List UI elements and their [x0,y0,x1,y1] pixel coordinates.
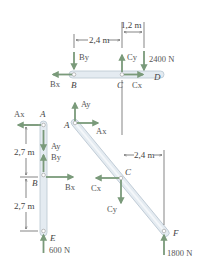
label-cy-top: Cy [127,52,138,62]
label-cx-diag: Cx [91,183,102,193]
label-cx-top: Cx [132,80,143,90]
label-by-top: By [79,52,90,62]
point-e: E [49,233,56,243]
pin-a-diag [73,121,77,125]
label-ay-diag: Ay [81,99,91,109]
top-dimensions: 2,4 m 1,2 m [74,20,144,48]
label-load-2400: 2400 N [149,54,174,64]
dim-left-be: 2,7 m [14,201,35,211]
label-bx-left: Bx [65,182,76,192]
point-f: F [172,228,179,238]
pin-c-diag [119,176,123,180]
dim-top-bc: 2,4 m [89,35,110,45]
member-bcd [69,71,164,78]
label-bx-top: Bx [50,79,61,89]
label-by-left: By [51,152,62,162]
pin-b-left [42,173,46,177]
label-load-600: 600 N [49,245,70,255]
pin-c-top [120,73,124,77]
top-forces: By Bx B Cy Cx C 2400 N D [50,51,174,90]
point-d: D [153,72,161,82]
pin-a-left [42,123,46,127]
point-c-top: C [117,80,124,90]
diag-forces: Ay Ax A Cx Cy C 1800 N F [63,99,192,258]
point-a-diag: A [63,120,70,130]
label-cy-diag: Cy [107,204,118,214]
point-c-diag: C [125,167,132,177]
pin-f [162,229,166,233]
pin-b-top [72,73,76,77]
pin-e [42,229,46,233]
dim-left-ab: 2,7 m [14,147,35,157]
label-ax-diag: Ax [96,126,107,136]
dim-top-cd: 1,2 m [121,20,142,30]
dim-right-cf: 2,4 m [134,150,155,160]
label-ay-left: Ay [51,141,61,151]
label-ax-left: Ax [14,109,25,119]
beam-bcd [69,71,164,78]
frame-diagram: 2,4 m 1,2 m By Bx B Cy Cx C 2400 N D 2,7 [0,0,205,274]
point-b-left: B [32,178,38,188]
point-b-top: B [71,80,77,90]
member-acf [70,118,171,238]
point-a-left: A [39,109,46,119]
label-load-1800: 1800 N [167,248,192,258]
